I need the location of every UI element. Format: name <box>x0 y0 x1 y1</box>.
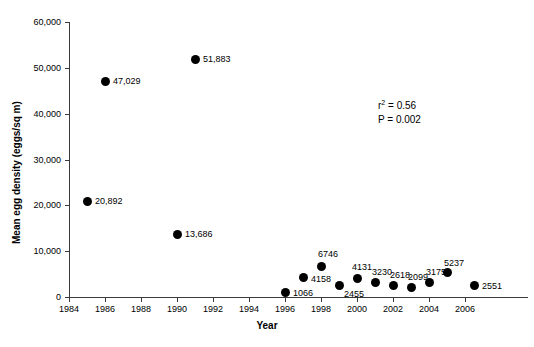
x-tick-1990 <box>177 298 178 302</box>
y-tick-40000 <box>65 114 69 115</box>
data-point-label: 13,686 <box>185 229 213 239</box>
data-point <box>335 281 344 290</box>
data-point-label: 4131 <box>352 262 372 272</box>
p-value-text: P = 0.002 <box>378 113 421 127</box>
x-tick-1984 <box>69 298 70 302</box>
x-tick-1992 <box>213 298 214 302</box>
data-point-label: 5237 <box>444 258 464 268</box>
data-point-label: 2551 <box>482 281 502 291</box>
data-point <box>281 288 290 297</box>
data-point-label: 4158 <box>311 274 331 284</box>
y-tick-10000 <box>65 251 69 252</box>
y-tick-label-60000: 60,000 <box>13 17 61 27</box>
x-tick-2006 <box>465 298 466 302</box>
data-point-label: 51,883 <box>203 54 231 64</box>
data-point <box>371 278 380 287</box>
data-point-label: 1066 <box>293 288 313 298</box>
r-squared-value: = 0.56 <box>385 100 416 111</box>
r-squared-text: r2 = 0.56 <box>378 96 421 113</box>
data-point-label: 6746 <box>318 249 338 259</box>
data-point <box>317 262 326 271</box>
data-point <box>173 230 182 239</box>
data-point <box>353 274 362 283</box>
y-tick-label-50000: 50,000 <box>13 63 61 73</box>
data-point <box>299 273 308 282</box>
x-tick-1986 <box>105 298 106 302</box>
x-tick-1996 <box>285 298 286 302</box>
scatter-chart: 010,00020,00030,00040,00050,00060,000 19… <box>0 0 534 347</box>
data-point <box>191 55 200 64</box>
x-tick-1998 <box>321 298 322 302</box>
y-tick-60000 <box>65 22 69 23</box>
y-axis-title: Mean egg density (eggs/sq m) <box>11 101 22 244</box>
data-point <box>443 268 452 277</box>
y-tick-30000 <box>65 160 69 161</box>
y-tick-label-0: 0 <box>13 292 61 302</box>
y-tick-label-10000: 10,000 <box>13 246 61 256</box>
data-point <box>470 281 479 290</box>
x-tick-1994 <box>249 298 250 302</box>
data-point-label: 47,029 <box>113 76 141 86</box>
x-tick-2004 <box>429 298 430 302</box>
x-axis-title: Year <box>0 320 534 331</box>
x-tick-1988 <box>141 298 142 302</box>
x-tick-label-2006: 2006 <box>442 304 488 314</box>
y-tick-20000 <box>65 205 69 206</box>
x-tick-2002 <box>393 298 394 302</box>
data-point-label: 20,892 <box>95 196 123 206</box>
data-point <box>389 281 398 290</box>
data-point <box>407 283 416 292</box>
y-tick-50000 <box>65 68 69 69</box>
data-point <box>83 197 92 206</box>
statistics-annotation: r2 = 0.56 P = 0.002 <box>378 96 421 127</box>
data-point-label: 2455 <box>344 289 364 299</box>
y-axis-line <box>69 22 70 298</box>
data-point <box>425 278 434 287</box>
data-point <box>101 77 110 86</box>
